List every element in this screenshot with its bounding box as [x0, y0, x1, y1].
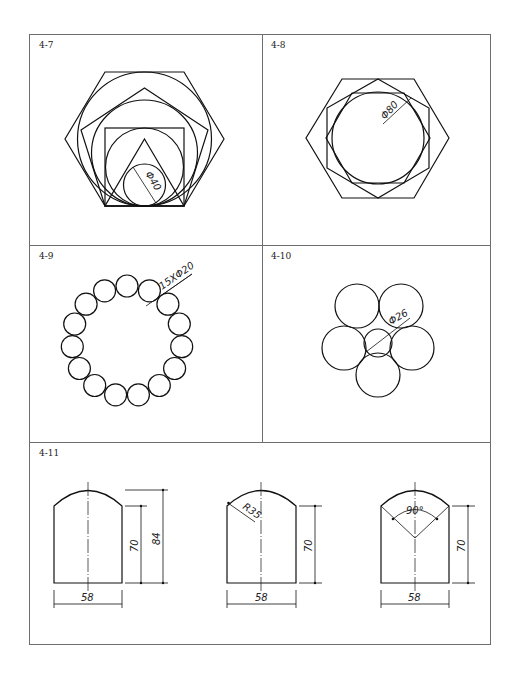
dim-angle-90: 90° — [406, 505, 424, 516]
outer-circle-top-left — [335, 284, 379, 328]
circle-phi80 — [332, 92, 424, 184]
ring-circle — [61, 336, 83, 358]
ring-circle — [116, 275, 138, 297]
inner-hexagon — [326, 93, 430, 183]
drawing-exercise-page: 4-7 4-8 4-9 4-10 4-11 — [0, 0, 518, 677]
ring-circle — [75, 293, 97, 315]
figure-4-11-shape-2: R35 70 58 — [227, 482, 322, 608]
drawing-canvas: Φ40 Φ80 15XΦ20 Φ26 — [0, 0, 518, 677]
outer-circle-bottom — [356, 353, 400, 397]
ring-circle — [168, 313, 190, 335]
ring-circle — [171, 336, 193, 358]
mid-circle — [92, 100, 198, 206]
dim-height-70: 70 — [129, 539, 140, 552]
dimension-text-phi40: Φ40 — [143, 169, 163, 192]
pentagon-shape — [81, 88, 208, 206]
dim-width-58-c: 58 — [408, 592, 421, 603]
ring-circle — [148, 375, 170, 397]
dim-radius-r35: R35 — [241, 501, 263, 521]
figure-4-7-nested-shapes: Φ40 — [65, 72, 224, 206]
figure-4-8-hexagons: Φ80 — [306, 79, 449, 198]
figure-4-10-circle-cluster: Φ26 — [322, 284, 434, 397]
ring-circle — [127, 384, 149, 406]
ring-circle — [64, 313, 86, 335]
figure-4-11-shape-1: 70 84 58 — [54, 482, 168, 608]
middle-hexagon — [327, 79, 429, 198]
dim-height-70-b: 70 — [303, 539, 314, 552]
dimension-text-phi26: Φ26 — [387, 307, 410, 327]
ring-circle — [94, 280, 116, 302]
ring-circle — [164, 358, 186, 380]
dim-total-height-84: 84 — [151, 532, 162, 545]
dimension-text-phi80: Φ80 — [378, 99, 400, 122]
figure-4-9-dimension: 15XΦ20 — [146, 260, 196, 306]
ring-circle — [105, 384, 127, 406]
figure-4-11-shape-3: 90° 70 58 — [381, 482, 475, 608]
dim-width-58: 58 — [81, 592, 94, 603]
figure-4-9-circle-ring — [61, 275, 192, 406]
dim-height-70-c: 70 — [456, 539, 467, 552]
triangle-shape — [105, 139, 184, 206]
dim-width-58-b: 58 — [255, 592, 268, 603]
ring-circle — [84, 375, 106, 397]
ring-circle — [68, 358, 90, 380]
